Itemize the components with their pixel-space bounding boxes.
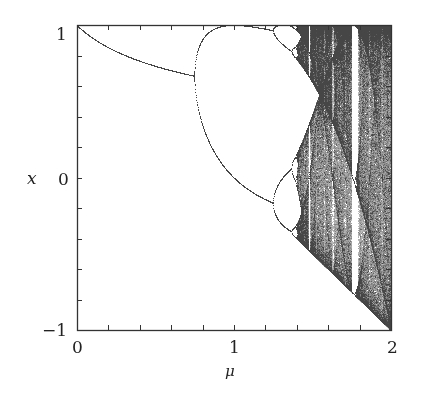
- y-axis-label: x: [27, 170, 37, 187]
- y-tick-0: 0: [58, 171, 69, 188]
- y-tick-1: 1: [56, 26, 67, 43]
- y-tick-minus-1: −1: [42, 322, 67, 339]
- x-tick-2: 2: [387, 339, 398, 356]
- x-axis-label: μ: [225, 364, 235, 379]
- x-tick-1: 1: [229, 339, 240, 356]
- x-tick-0: 0: [72, 339, 83, 356]
